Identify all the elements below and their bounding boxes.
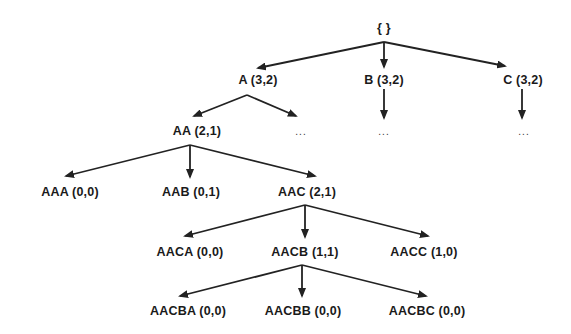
node-aab: AAB (0,1) bbox=[162, 185, 220, 199]
edge-arrow-to-a bbox=[258, 42, 384, 68]
node-a-more-ellipsis: ... bbox=[295, 126, 306, 137]
node-root: { } bbox=[377, 21, 391, 35]
edge-arrow-to-aacbc bbox=[302, 265, 426, 296]
edge-arrow-to-aa bbox=[194, 95, 247, 116]
node-aacb: AACB (1,1) bbox=[271, 245, 338, 259]
edge-arrow-to-a-more bbox=[247, 95, 296, 116]
node-aac: AAC (2,1) bbox=[278, 185, 336, 199]
edge-arrow-to-aac bbox=[190, 145, 315, 176]
tree-edges bbox=[0, 0, 571, 334]
edge-arrow-to-aaca bbox=[185, 205, 305, 236]
edge-arrow-to-aacc bbox=[305, 205, 428, 236]
node-aacba: AACBA (0,0) bbox=[150, 304, 226, 318]
node-aacbb: AACBB (0,0) bbox=[265, 304, 342, 318]
tree-diagram: { } A (3,2) B (3,2) C (3,2) AA (2,1) ...… bbox=[0, 0, 571, 334]
node-aacbc: AACBC (0,0) bbox=[389, 304, 466, 318]
node-c: C (3,2) bbox=[503, 73, 543, 87]
node-b-more-ellipsis: ... bbox=[378, 126, 389, 137]
node-aaca: AACA (0,0) bbox=[157, 245, 224, 259]
edge-arrow-to-c bbox=[384, 42, 505, 66]
node-c-more-ellipsis: ... bbox=[518, 126, 529, 137]
edge-arrow-to-aacba bbox=[180, 265, 302, 296]
node-a: A (3,2) bbox=[238, 73, 277, 87]
node-b: B (3,2) bbox=[364, 73, 404, 87]
node-aaa: AAA (0,0) bbox=[41, 185, 99, 199]
node-aacc: AACC (1,0) bbox=[390, 245, 457, 259]
edge-arrow-to-aaa bbox=[66, 145, 190, 176]
node-aa: AA (2,1) bbox=[173, 124, 221, 138]
